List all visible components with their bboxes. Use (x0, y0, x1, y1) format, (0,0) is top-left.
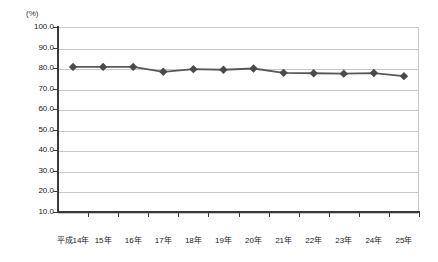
line-series (0, 0, 438, 262)
data-point-marker (189, 65, 197, 73)
data-point-marker (219, 66, 227, 74)
data-point-marker (279, 69, 287, 77)
data-point-marker (159, 68, 167, 76)
data-point-marker (249, 64, 257, 72)
data-point-marker (99, 63, 107, 71)
data-point-marker (69, 63, 77, 71)
chart-screenshot: (%) 100.090.080.070.060.050.040.030.020.… (0, 0, 438, 262)
data-point-marker (370, 69, 378, 77)
data-point-marker (129, 63, 137, 71)
series-line (73, 67, 404, 76)
data-point-marker (310, 69, 318, 77)
data-point-marker (340, 69, 348, 77)
data-point-marker (400, 72, 408, 80)
